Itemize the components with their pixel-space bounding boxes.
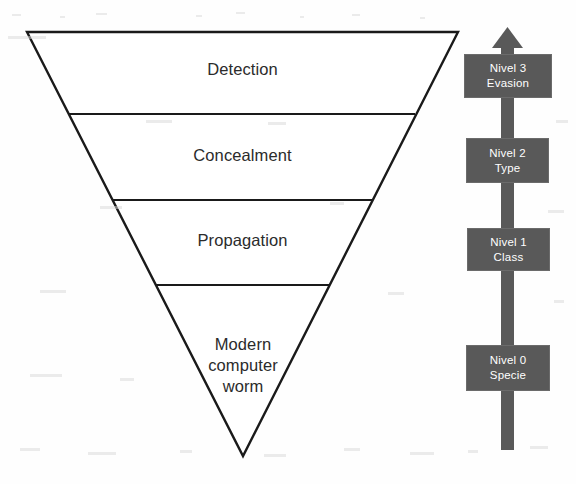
level-box-nivel-0-level: Nivel 0 [490,353,527,368]
level-box-nivel-3-level: Nivel 3 [490,61,527,76]
level-box-nivel-1[interactable]: Nivel 1 Class [467,228,550,271]
level-box-nivel-3[interactable]: Nivel 3 Evasion [464,54,552,98]
level-box-nivel-1-level: Nivel 1 [490,235,527,250]
up-arrow-icon [492,27,523,48]
diagram-canvas: Detection Concealment Propagation Modern… [0,0,576,484]
level-box-nivel-2[interactable]: Nivel 2 Type [466,138,549,183]
level-box-nivel-0[interactable]: Nivel 0 Specie [466,345,550,391]
level-box-nivel-0-name: Specie [490,368,526,383]
level-box-nivel-2-name: Type [495,161,521,176]
level-box-nivel-1-name: Class [494,250,524,265]
level-box-nivel-3-name: Evasion [487,76,529,91]
level-box-nivel-2-level: Nivel 2 [489,146,526,161]
